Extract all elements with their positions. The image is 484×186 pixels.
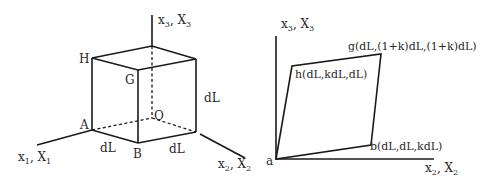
x1-axis-line bbox=[37, 130, 92, 145]
edge-label-front-bottom: dL bbox=[100, 141, 116, 155]
cube-top-face bbox=[92, 46, 196, 70]
vertical-axis-label: x3, X3 bbox=[281, 17, 314, 33]
vertex-b-label: b(dL,dL,kdL) bbox=[370, 140, 442, 153]
x1-axis-label: x1, X1 bbox=[18, 150, 51, 166]
hidden-edge-left bbox=[92, 118, 152, 130]
horizontal-axis-label: x2, X2 bbox=[425, 161, 458, 177]
vertex-G-label: G bbox=[125, 73, 135, 87]
vertex-a-label: a bbox=[266, 154, 273, 168]
vertex-g-label: g(dL,(1+k)dL,(1+k)dL) bbox=[348, 40, 477, 53]
vertex-H-label: H bbox=[79, 52, 89, 66]
deformed-face: x3, X3 x2, X2 a b(dL,dL,kdL) g(dL,(1+k)d… bbox=[266, 17, 477, 177]
vertex-h-label: h(dL,kdL,dL) bbox=[295, 68, 367, 81]
x2-axis-line bbox=[200, 134, 245, 158]
vertex-B-label: B bbox=[133, 147, 142, 161]
edge-label-right-bottom: dL bbox=[169, 142, 185, 156]
x3-axis-label: x3, X3 bbox=[158, 13, 191, 29]
edge-B-right bbox=[138, 132, 196, 143]
vertex-O-label: O bbox=[154, 109, 164, 123]
undeformed-cube: x3, X3 x1, X1 x2, X2 H G A B O dL dL dL bbox=[18, 13, 251, 173]
edge-label-right-vertical: dL bbox=[204, 91, 220, 105]
diagram-canvas: x3, X3 x1, X1 x2, X2 H G A B O dL dL dL … bbox=[0, 0, 484, 186]
x2-axis-label: x2, X2 bbox=[218, 157, 251, 173]
vertex-A-label: A bbox=[79, 118, 89, 132]
